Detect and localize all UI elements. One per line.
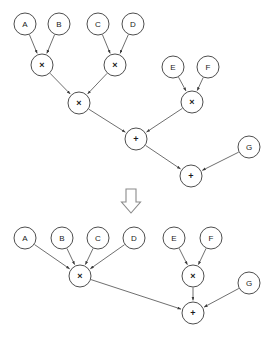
edge-b_E-to-b_M2 bbox=[179, 248, 187, 264]
node-label-b_C: C bbox=[95, 234, 101, 243]
node-t_C[interactable]: C bbox=[87, 13, 109, 35]
node-b_G[interactable]: G bbox=[238, 272, 260, 294]
edge-b_M1-to-b_P1 bbox=[91, 280, 181, 310]
node-label-t_C: C bbox=[95, 20, 101, 29]
node-t_P1[interactable]: + bbox=[125, 128, 147, 150]
node-label-t_B: B bbox=[56, 20, 61, 29]
node-label-t_M4: × bbox=[189, 97, 194, 107]
node-b_F[interactable]: F bbox=[200, 227, 222, 249]
edge-t_M1-to-t_M3 bbox=[50, 73, 70, 94]
edge-b_G-to-b_P1 bbox=[204, 288, 239, 307]
node-b_B[interactable]: B bbox=[51, 227, 73, 249]
node-label-t_P1: + bbox=[133, 134, 138, 144]
edge-t_G-to-t_P2 bbox=[202, 152, 238, 170]
node-t_M1[interactable]: × bbox=[31, 54, 53, 76]
node-b_M1[interactable]: × bbox=[69, 265, 91, 287]
edge-group-after bbox=[34, 245, 238, 310]
node-t_B[interactable]: B bbox=[48, 13, 70, 35]
node-label-t_D: D bbox=[130, 20, 136, 29]
diagram-canvas: ABCDEFG××××++ ABCDEFG××+ bbox=[0, 0, 274, 342]
edge-t_B-to-t_M1 bbox=[47, 35, 55, 54]
node-label-t_G: G bbox=[246, 143, 252, 152]
node-label-t_F: F bbox=[206, 63, 211, 72]
edge-t_M4-to-t_P1 bbox=[147, 108, 183, 132]
node-b_E[interactable]: E bbox=[163, 227, 185, 249]
edge-b_F-to-b_M2 bbox=[198, 248, 206, 264]
node-label-b_A: A bbox=[22, 234, 28, 243]
down-block-arrow-icon bbox=[122, 189, 141, 213]
node-label-b_D: D bbox=[131, 234, 137, 243]
edge-t_E-to-t_M4 bbox=[178, 77, 186, 91]
node-label-t_M2: × bbox=[112, 60, 117, 70]
node-label-b_B: B bbox=[59, 234, 64, 243]
node-label-b_P1: + bbox=[190, 308, 195, 318]
node-t_G[interactable]: G bbox=[238, 136, 260, 158]
node-b_A[interactable]: A bbox=[14, 227, 36, 249]
node-group-after: ABCDEFG××+ bbox=[14, 227, 260, 324]
node-t_M4[interactable]: × bbox=[181, 91, 203, 113]
edge-b_C-to-b_M1 bbox=[85, 248, 93, 264]
node-label-t_M3: × bbox=[76, 98, 81, 108]
edge-t_M2-to-t_M3 bbox=[88, 73, 107, 94]
transition-arrow bbox=[122, 189, 141, 213]
node-t_D[interactable]: D bbox=[122, 13, 144, 35]
node-t_M2[interactable]: × bbox=[104, 54, 126, 76]
node-b_P1[interactable]: + bbox=[182, 302, 204, 324]
node-group-before: ABCDEFG××××++ bbox=[14, 13, 260, 187]
node-t_A[interactable]: A bbox=[14, 13, 36, 35]
node-b_M2[interactable]: × bbox=[182, 265, 204, 287]
node-t_E[interactable]: E bbox=[162, 56, 184, 78]
edge-t_M3-to-t_P1 bbox=[89, 109, 126, 132]
node-b_D[interactable]: D bbox=[123, 227, 145, 249]
edge-b_B-to-b_M1 bbox=[67, 248, 75, 264]
node-label-t_P2: + bbox=[188, 171, 193, 181]
node-b_C[interactable]: C bbox=[87, 227, 109, 249]
edge-t_F-to-t_M4 bbox=[197, 77, 203, 90]
node-label-b_F: F bbox=[209, 234, 214, 243]
node-t_P2[interactable]: + bbox=[180, 165, 202, 187]
dataflow-graph-svg: ABCDEFG××××++ ABCDEFG××+ bbox=[0, 0, 274, 342]
node-label-b_M1: × bbox=[77, 271, 82, 281]
node-label-t_A: A bbox=[22, 20, 28, 29]
node-label-b_M2: × bbox=[190, 271, 195, 281]
node-label-t_M1: × bbox=[39, 60, 44, 70]
edge-t_A-to-t_M1 bbox=[29, 35, 37, 54]
node-label-t_E: E bbox=[170, 63, 175, 72]
edge-t_C-to-t_M2 bbox=[102, 35, 110, 54]
node-label-b_E: E bbox=[171, 234, 176, 243]
node-t_M3[interactable]: × bbox=[68, 92, 90, 114]
edge-t_D-to-t_M2 bbox=[120, 35, 128, 54]
node-t_F[interactable]: F bbox=[197, 56, 219, 78]
edge-t_P1-to-t_P2 bbox=[146, 145, 181, 169]
node-label-b_G: G bbox=[246, 279, 252, 288]
